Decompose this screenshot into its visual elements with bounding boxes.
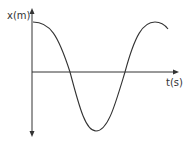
displacement-curve <box>33 22 168 131</box>
x-axis-label: t(s) <box>166 77 183 88</box>
y-axis-label: x(m) <box>7 10 31 21</box>
y-axis-down-arrow-icon <box>30 131 35 137</box>
x-axis-arrow-icon <box>173 70 179 75</box>
displacement-time-graph: x(m) t(s) <box>0 0 191 143</box>
